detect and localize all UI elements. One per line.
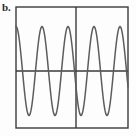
figure-panel: b.: [0, 0, 136, 136]
plot-area: [0, 0, 136, 136]
oscillation-chart-svg: [0, 0, 136, 136]
plot-frame: [16, 7, 128, 128]
